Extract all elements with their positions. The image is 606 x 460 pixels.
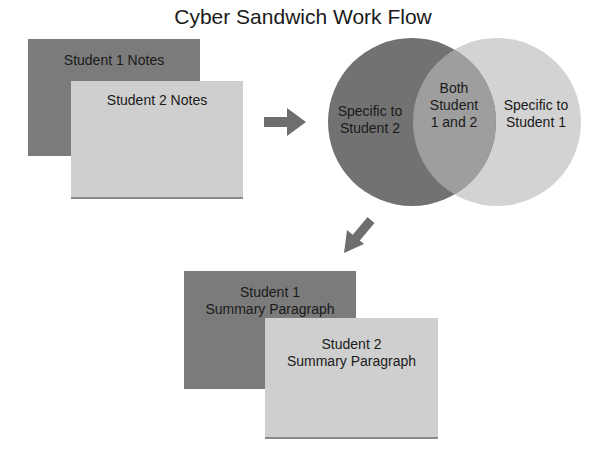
venn-left-label: Specific to Student 2 — [330, 103, 410, 137]
diagonal-arrow-icon — [344, 220, 371, 253]
student2-summary-card: Student 2 Summary Paragraph — [265, 318, 438, 439]
venn-right-label: Specific to Student 1 — [496, 97, 576, 131]
venn-overlap-label: Both Student 1 and 2 — [414, 80, 494, 131]
right-arrow-icon — [264, 108, 306, 136]
